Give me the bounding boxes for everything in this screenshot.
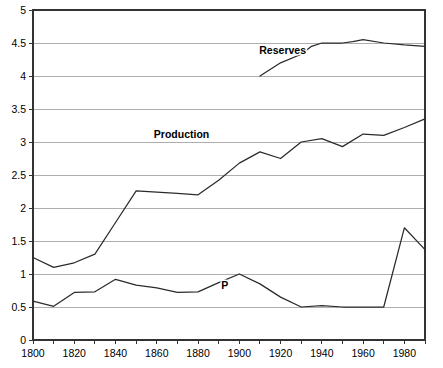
series-annotation-p: P	[221, 279, 228, 291]
data-series-lines	[33, 40, 425, 307]
y-axis-label: 4	[20, 70, 26, 82]
x-axis-label: 1980	[393, 347, 417, 359]
axis-tick-marks	[29, 10, 425, 344]
y-axis-label: 0	[20, 334, 26, 346]
x-axis-label: 1900	[228, 347, 252, 359]
x-axis-label: 1860	[145, 347, 169, 359]
chart-canvas: 00.511.522.533.544.55 180018201840186018…	[0, 0, 443, 368]
y-axis-label: 1	[20, 268, 26, 280]
series-line-p	[33, 228, 425, 307]
y-axis-label: 1.5	[11, 235, 26, 247]
x-axis-label: 1920	[269, 347, 293, 359]
line-chart: 00.511.522.533.544.55 180018201840186018…	[0, 0, 443, 368]
x-axis-label: 1800	[21, 347, 45, 359]
y-axis-label: 3.5	[11, 103, 26, 115]
y-axis-label: 5	[20, 4, 26, 16]
y-axis-label: 3	[20, 136, 26, 148]
y-axis-label: 2.5	[11, 169, 26, 181]
y-axis-tick-labels: 00.511.522.533.544.55	[11, 4, 26, 346]
x-axis-label: 1820	[63, 347, 87, 359]
series-annotations: ReservesReservesProductionProductionPP	[154, 44, 306, 290]
x-axis-label: 1840	[104, 347, 128, 359]
series-annotation-reserves: Reserves	[259, 44, 306, 56]
x-axis-label: 1960	[351, 347, 375, 359]
gridlines	[33, 43, 425, 307]
y-axis-label: 2	[20, 202, 26, 214]
x-axis-label: 1880	[186, 347, 210, 359]
y-axis-label: 0.5	[11, 301, 26, 313]
series-line-production	[33, 119, 425, 268]
x-axis-tick-labels: 1800182018401860188019001920194019601980	[21, 347, 416, 359]
y-axis-label: 4.5	[11, 37, 26, 49]
x-axis-label: 1940	[310, 347, 334, 359]
series-annotation-production: Production	[154, 128, 209, 140]
